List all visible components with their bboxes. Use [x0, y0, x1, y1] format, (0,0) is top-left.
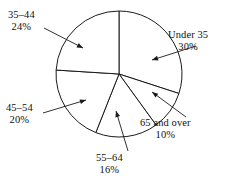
slice-label-35-44: 35–44 24%: [8, 9, 35, 33]
slice-label-percent: 10%: [140, 129, 191, 141]
slice-label-45-54: 45–54 20%: [6, 102, 33, 126]
slice-label-percent: 30%: [168, 41, 208, 53]
slice-label-65-and-over: 65 and over 10%: [140, 117, 191, 141]
slice-label-name: 35–44: [8, 9, 35, 21]
slice-label-percent: 24%: [8, 21, 35, 33]
slice-label-name: 45–54: [6, 102, 33, 114]
slice-label-name: Under 35: [168, 29, 208, 41]
slice-label-under-35: Under 35 30%: [168, 29, 208, 53]
slice-label-percent: 20%: [6, 114, 33, 126]
pie-chart-canvas: [0, 0, 247, 187]
slice-label-percent: 16%: [96, 164, 123, 176]
slice-label-name: 55–64: [96, 152, 123, 164]
slice-label-name: 65 and over: [140, 117, 191, 129]
pie-chart-figure: Under 35 30% 65 and over 10% 55–64 16% 4…: [0, 0, 247, 187]
slice-label-55-64: 55–64 16%: [96, 152, 123, 176]
pie-slice: [56, 11, 119, 74]
